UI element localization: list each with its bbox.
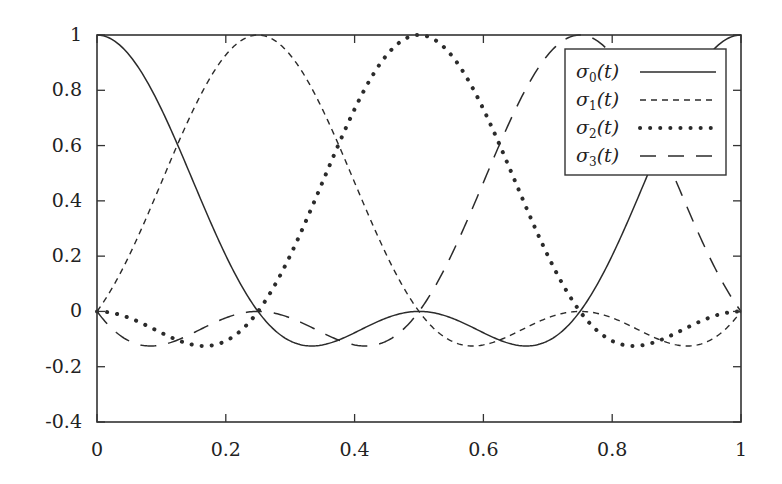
basis-functions-chart: 00.20.40.60.81 10.80.60.40.20-0.2-0.4 σ0… xyxy=(0,0,782,484)
legend-label-sigma-2: σ2(t) xyxy=(576,116,619,141)
x-axis-tick-labels: 00.20.40.60.81 xyxy=(91,438,747,460)
y-tick-label: -0.2 xyxy=(45,355,82,377)
x-tick-label: 0.2 xyxy=(211,438,241,460)
y-tick-label: 0.4 xyxy=(52,189,82,211)
y-tick-label: 0 xyxy=(70,299,82,321)
y-tick-label: 0.8 xyxy=(52,78,82,100)
legend-label-sigma-1: σ1(t) xyxy=(576,88,619,113)
legend-label-sigma-3: σ3(t) xyxy=(576,144,619,169)
x-tick-label: 1 xyxy=(735,438,747,460)
x-tick-label: 0.6 xyxy=(468,438,498,460)
legend: σ0(t)σ1(t)σ2(t)σ3(t) xyxy=(565,49,726,175)
y-tick-label: 0.2 xyxy=(52,244,82,266)
x-tick-label: 0 xyxy=(91,438,103,460)
y-axis-tick-labels: 10.80.60.40.20-0.2-0.4 xyxy=(45,23,82,432)
x-tick-label: 0.8 xyxy=(597,438,627,460)
legend-label-sigma-0: σ0(t) xyxy=(576,60,619,85)
y-tick-label: -0.4 xyxy=(45,410,82,432)
x-tick-label: 0.4 xyxy=(339,438,369,460)
y-tick-label: 0.6 xyxy=(52,134,82,156)
y-tick-label: 1 xyxy=(70,23,82,45)
